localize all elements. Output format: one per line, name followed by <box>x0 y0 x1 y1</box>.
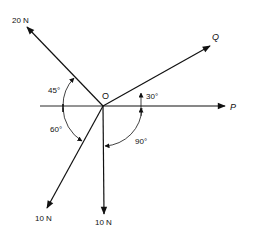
angle-arc-60 <box>63 108 82 141</box>
force-10n-down-arrow <box>103 106 104 214</box>
origin-label: O <box>102 91 109 101</box>
angle-label-90: 90° <box>135 137 147 146</box>
force-20n-arrow <box>27 27 103 106</box>
force-20n-label: 20 N <box>12 16 29 25</box>
force-10n-left-label: 10 N <box>35 214 52 223</box>
angle-arc-45 <box>63 78 74 106</box>
force-q-label: Q <box>212 32 219 42</box>
angle-label-45: 45° <box>48 86 60 95</box>
angle-label-60: 60° <box>50 125 62 134</box>
force-p-label: P <box>230 102 236 112</box>
force-10n-left-arrow <box>47 106 103 208</box>
force-diagram: O 20 N Q P 10 N 10 N 45° 60° 30° 90° <box>0 0 253 243</box>
force-10n-down-label: 10 N <box>95 218 112 227</box>
angle-label-30: 30° <box>146 92 158 101</box>
